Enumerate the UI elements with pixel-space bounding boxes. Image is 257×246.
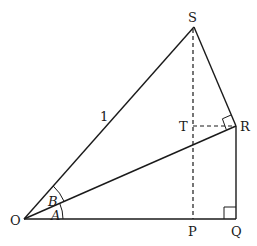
point-label-T: T bbox=[179, 119, 188, 134]
angle-label-A: A bbox=[50, 208, 60, 223]
right-angle-marker-Q bbox=[224, 207, 236, 219]
segment-SR bbox=[194, 27, 236, 126]
point-label-R: R bbox=[240, 119, 251, 134]
point-label-Q: Q bbox=[231, 224, 242, 239]
side-label-OS: 1 bbox=[100, 109, 108, 124]
right-angle-marker-R bbox=[222, 115, 231, 130]
point-label-O: O bbox=[10, 213, 21, 228]
angle-label-B: B bbox=[47, 194, 58, 209]
point-label-S: S bbox=[188, 10, 197, 25]
segment-OS bbox=[24, 27, 194, 219]
geometry-diagram: S R T O P Q 1 B A bbox=[0, 0, 257, 246]
point-label-P: P bbox=[188, 224, 197, 239]
